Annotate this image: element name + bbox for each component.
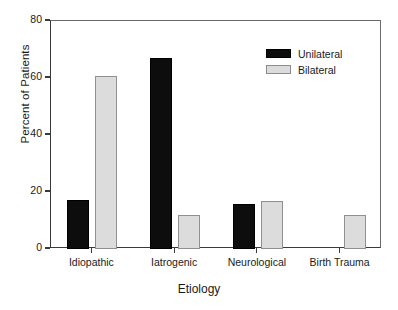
bar-chart: Percent of Patients 020406080 Idiopathic… (0, 0, 398, 310)
x-axis-title: Etiology (0, 282, 398, 296)
x-tick-mark (256, 248, 257, 253)
x-tick-label: Birth Trauma (280, 256, 398, 268)
chart-legend: UnilateralBilateral (266, 47, 342, 79)
bar-idiopathic-unilateral (67, 200, 89, 249)
bar-iatrogenic-unilateral (150, 58, 172, 249)
y-tick-label: 40 (30, 127, 42, 140)
x-tick-mark (339, 248, 340, 253)
y-tick-label: 0 (36, 241, 42, 254)
bar-neurological-unilateral (233, 204, 255, 249)
y-tick-label: 60 (30, 70, 42, 83)
y-axis-title: Percent of Patients (19, 14, 31, 174)
bar-iatrogenic-bilateral (178, 215, 200, 249)
y-tick-label: 20 (30, 184, 42, 197)
legend-swatch-unilateral (266, 49, 291, 58)
bar-birth-trauma-bilateral (344, 215, 366, 249)
legend-item-bilateral[interactable]: Bilateral (266, 63, 342, 76)
legend-label-unilateral: Unilateral (298, 48, 342, 60)
legend-swatch-bilateral (266, 65, 291, 74)
legend-label-bilateral: Bilateral (298, 64, 336, 76)
x-tick-mark (91, 248, 92, 253)
legend-item-unilateral[interactable]: Unilateral (266, 47, 342, 60)
bar-neurological-bilateral (261, 201, 283, 249)
bar-idiopathic-bilateral (95, 76, 117, 249)
x-tick-mark (174, 248, 175, 253)
y-tick-label: 80 (30, 13, 42, 26)
